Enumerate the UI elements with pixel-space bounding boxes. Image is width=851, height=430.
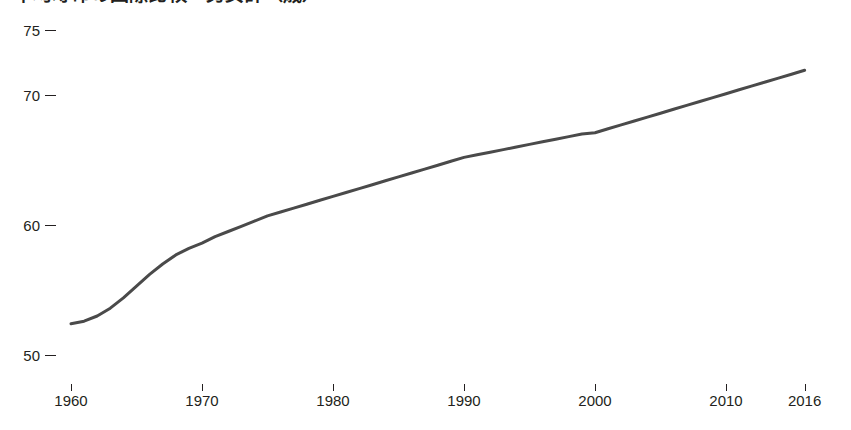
x-axis-tick-mark — [202, 384, 203, 391]
x-axis-tick-mark — [726, 384, 727, 391]
x-axis-tick-mark — [71, 384, 72, 391]
y-axis-tick-60: 60 — [0, 217, 56, 233]
y-axis-tick-label: 70 — [23, 87, 40, 104]
plot-area — [0, 0, 851, 430]
x-axis-tick-1990: 1990 — [434, 392, 494, 409]
line-chart-svg — [0, 0, 851, 430]
data-series-line — [71, 70, 805, 323]
x-axis-tick-mark — [333, 384, 334, 391]
x-axis-tick-2010: 2010 — [696, 392, 756, 409]
chart-container: 平均寿命の国際比較・男女計（歳） 50607075 19601970198019… — [0, 0, 851, 430]
x-axis-tick-mark — [464, 384, 465, 391]
y-axis-tick-mark — [45, 30, 56, 31]
y-axis-tick-70: 70 — [0, 87, 56, 103]
x-axis-tick-2000: 2000 — [565, 392, 625, 409]
x-axis-tick-1970: 1970 — [172, 392, 232, 409]
y-axis-tick-label: 60 — [23, 217, 40, 234]
y-axis-tick-label: 75 — [23, 22, 40, 39]
x-axis-tick-1980: 1980 — [303, 392, 363, 409]
x-axis-tick-1960: 1960 — [41, 392, 101, 409]
x-axis-tick-2016: 2016 — [775, 392, 835, 409]
y-axis-tick-50: 50 — [0, 347, 56, 363]
y-axis-tick-75: 75 — [0, 22, 56, 38]
y-axis-tick-mark — [45, 95, 56, 96]
y-axis-tick-mark — [45, 225, 56, 226]
y-axis-tick-label: 50 — [23, 347, 40, 364]
x-axis-tick-mark — [595, 384, 596, 391]
x-axis-tick-mark — [805, 384, 806, 391]
y-axis-tick-mark — [45, 355, 56, 356]
